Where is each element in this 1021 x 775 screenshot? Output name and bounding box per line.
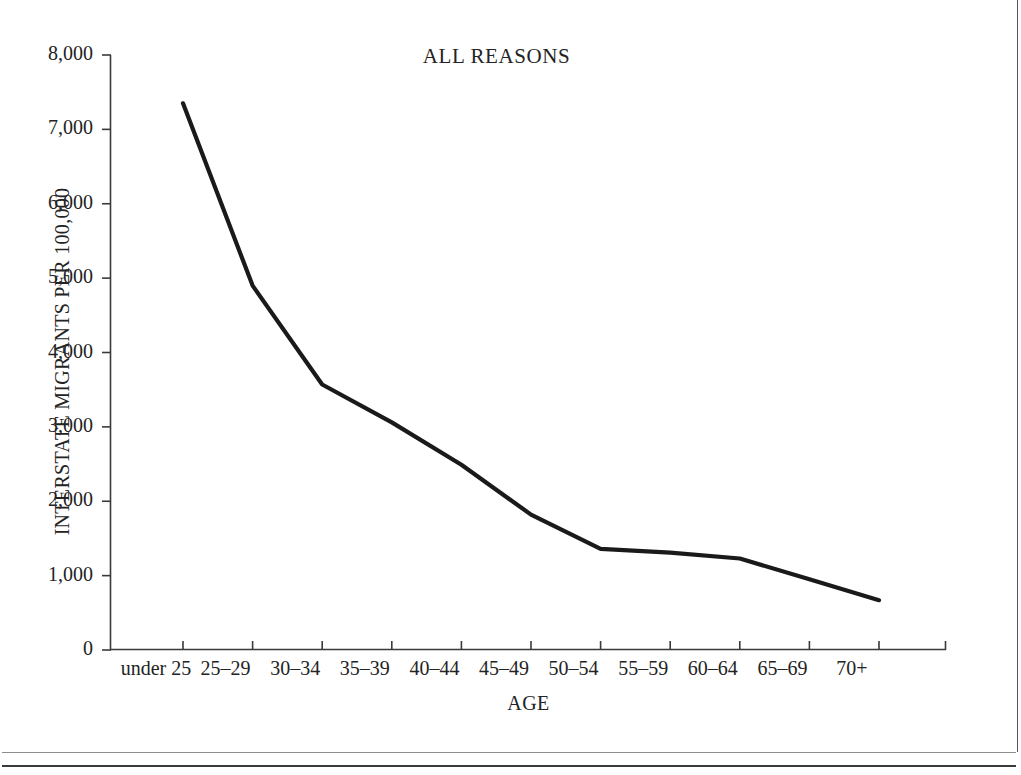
y-axis-tick-label: 8,000 bbox=[3, 42, 93, 65]
y-axis-tick-label: 2,000 bbox=[3, 488, 93, 511]
x-axis-ticks bbox=[183, 641, 879, 650]
x-axis-tick-label: 30–34 bbox=[270, 657, 320, 680]
x-axis-tick-label: 40–44 bbox=[409, 657, 459, 680]
y-axis-tick-label: 0 bbox=[3, 637, 93, 660]
y-axis-ticks bbox=[102, 55, 111, 650]
y-axis-tick-label: 7,000 bbox=[3, 116, 93, 139]
x-axis-tick-label: under 25 bbox=[121, 657, 192, 680]
y-axis-tick-label: 6,000 bbox=[3, 191, 93, 214]
line-chart: ALL REASONS INTERSTATE MIGRANTS PER 100,… bbox=[0, 0, 1021, 775]
x-axis-tick-label: 70+ bbox=[836, 657, 867, 680]
y-axis-tick-label: 4,000 bbox=[3, 340, 93, 363]
data-series-line bbox=[183, 103, 879, 600]
x-axis-tick-label: 60–64 bbox=[688, 657, 738, 680]
y-axis-tick-label: 3,000 bbox=[3, 414, 93, 437]
x-axis-tick-label: 35–39 bbox=[340, 657, 390, 680]
y-axis-tick-label: 1,000 bbox=[3, 563, 93, 586]
x-axis-tick-label: 55–59 bbox=[618, 657, 668, 680]
x-axis-tick-label: 50–54 bbox=[549, 657, 599, 680]
x-axis-tick-label: 45–49 bbox=[479, 657, 529, 680]
x-axis-tick-label: 25–29 bbox=[201, 657, 251, 680]
y-axis-tick-label: 5,000 bbox=[3, 265, 93, 288]
x-axis-tick-label: 65–69 bbox=[757, 657, 807, 680]
